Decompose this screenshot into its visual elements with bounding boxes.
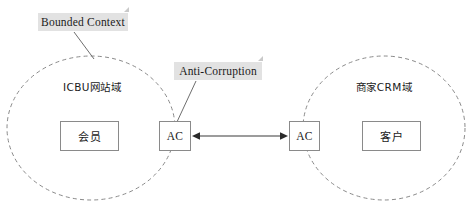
note-bounded-context[interactable]: Bounded Context [38, 13, 128, 31]
note-fold-corner-icon [124, 7, 129, 12]
entity-box-ac-right[interactable]: AC [289, 121, 320, 151]
leader-line-bounded-context [74, 32, 94, 59]
entity-box-member[interactable]: 会员 [60, 121, 119, 151]
note-fold-corner-icon [258, 56, 263, 61]
note-anti-corruption[interactable]: Anti-Corruption [174, 62, 262, 80]
entity-box-ac-left[interactable]: AC [159, 121, 191, 151]
context-label-crm: 商家CRM域 [338, 79, 430, 94]
arrowhead-left [192, 132, 200, 140]
diagram-canvas: ICBU网站域 商家CRM域 会员 客户 AC AC Bounded Conte… [0, 0, 472, 214]
entity-box-customer[interactable]: 客户 [362, 121, 421, 151]
context-label-icbu: ICBU网站域 [46, 79, 138, 94]
arrowhead-right [280, 132, 288, 140]
connector-ac-to-ac [192, 132, 288, 140]
leader-line-anti-corruption [176, 81, 196, 124]
diagram-vector-layer [0, 0, 472, 214]
